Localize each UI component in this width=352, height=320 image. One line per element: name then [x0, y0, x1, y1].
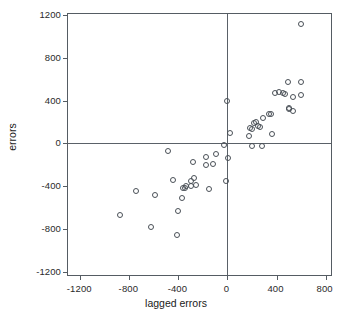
data-point — [298, 92, 304, 98]
data-point — [148, 224, 154, 230]
x-axis-tick — [80, 275, 81, 280]
data-point — [203, 162, 209, 168]
data-point — [190, 159, 196, 165]
y-axis-tick-label: 400 — [45, 94, 61, 105]
y-axis-title: errors — [6, 97, 18, 177]
x-axis-tick-label: -1200 — [67, 283, 92, 294]
data-point — [203, 154, 209, 160]
x-axis-tick — [178, 275, 179, 280]
data-point — [290, 94, 296, 100]
y-axis-tick-label: -400 — [42, 180, 61, 191]
x-axis-tick-label: -400 — [168, 283, 187, 294]
x-axis-tick-label: -800 — [119, 283, 138, 294]
data-point — [165, 148, 171, 154]
data-point — [174, 232, 180, 238]
data-point — [221, 142, 227, 148]
x-axis-tick-label: 0 — [224, 283, 229, 294]
data-point — [249, 143, 255, 149]
y-axis-tick — [63, 101, 68, 102]
data-point — [170, 177, 176, 183]
y-axis-tick — [63, 143, 68, 144]
data-point — [227, 130, 233, 136]
data-point — [285, 79, 291, 85]
data-point — [246, 133, 252, 139]
data-point — [191, 175, 197, 181]
data-point — [117, 212, 123, 218]
x-axis-tick — [326, 275, 327, 280]
x-axis-tick-label-group: -1200-800-4000400800 — [67, 283, 332, 297]
x-axis-title: lagged errors — [0, 297, 352, 309]
y-axis-tick-label: -800 — [42, 222, 61, 233]
data-point — [180, 185, 186, 191]
y-axis-tick — [63, 272, 68, 273]
y-axis-tick-label: 1200 — [39, 9, 61, 20]
data-point — [249, 126, 255, 132]
data-point — [260, 115, 266, 121]
x-axis-tick — [277, 275, 278, 280]
data-point — [210, 161, 216, 167]
scatter-plot-figure: -1200-800-40004008001200 -1200-800-40004… — [0, 0, 352, 320]
data-point — [298, 21, 304, 27]
data-point — [206, 186, 212, 192]
y-axis-tick — [63, 229, 68, 230]
data-point — [269, 131, 275, 137]
zero-reference-line-vertical — [227, 14, 228, 275]
y-axis-tick-label: 800 — [45, 51, 61, 62]
data-point — [257, 124, 263, 130]
data-point — [272, 90, 278, 96]
data-point — [286, 106, 292, 112]
x-axis-tick — [227, 275, 228, 280]
data-point — [223, 178, 229, 184]
data-point — [133, 188, 139, 194]
y-axis-tick — [63, 186, 68, 187]
y-axis-tick — [63, 58, 68, 59]
y-axis-tick-label-group: -1200-800-40004008001200 — [18, 13, 61, 276]
data-point — [179, 195, 185, 201]
y-axis-tick — [63, 15, 68, 16]
x-axis-tick-label: 800 — [317, 283, 333, 294]
data-point — [213, 151, 219, 157]
data-point — [259, 143, 265, 149]
data-point — [175, 208, 181, 214]
y-axis-tick-label: -1200 — [36, 265, 61, 276]
data-point — [224, 98, 230, 104]
data-point — [152, 192, 158, 198]
zero-reference-line-horizontal — [68, 143, 331, 144]
data-point — [282, 91, 288, 97]
plot-area — [67, 13, 332, 276]
y-axis-tick-label: 0 — [56, 137, 61, 148]
x-axis-tick — [129, 275, 130, 280]
x-axis-tick-label: 400 — [267, 283, 283, 294]
data-point — [225, 155, 231, 161]
data-point — [298, 79, 304, 85]
data-point — [268, 111, 274, 117]
